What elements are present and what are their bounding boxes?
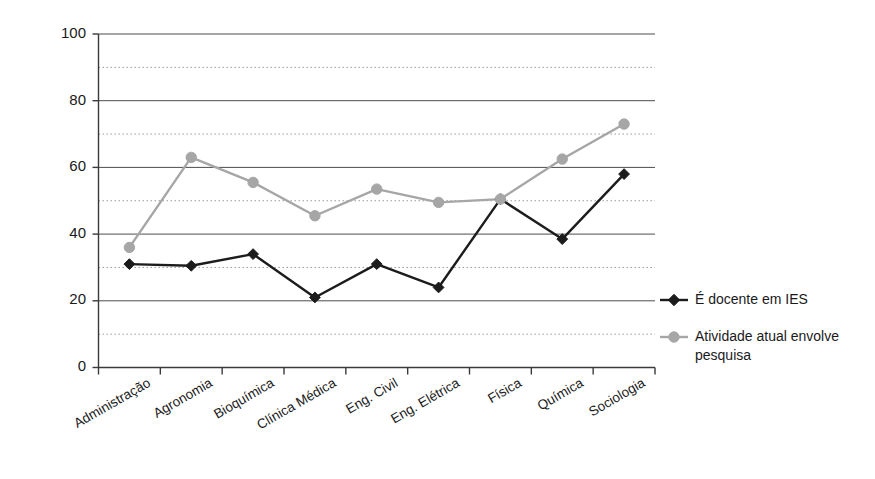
data-point-b-3 bbox=[310, 211, 320, 221]
legend-label-series-b-line2: pesquisa bbox=[695, 347, 751, 363]
chart-background bbox=[0, 0, 875, 479]
y-tick-label-0: 0 bbox=[78, 357, 86, 374]
data-point-b-5 bbox=[433, 197, 443, 207]
data-point-b-6 bbox=[495, 194, 505, 204]
y-tick-label-60: 60 bbox=[69, 157, 86, 174]
legend-label-series-a: É docente em IES bbox=[695, 291, 808, 307]
data-point-b-2 bbox=[248, 177, 258, 187]
data-point-b-4 bbox=[372, 184, 382, 194]
legend-marker-series-b bbox=[669, 332, 679, 342]
y-tick-label-100: 100 bbox=[61, 24, 86, 41]
data-point-b-7 bbox=[557, 154, 567, 164]
chart-canvas: 100 80 60 40 20 0 AdministraçãoAgronomia… bbox=[0, 0, 875, 479]
line-chart: 100 80 60 40 20 0 AdministraçãoAgronomia… bbox=[0, 0, 875, 479]
legend-label-series-b-line1: Atividade atual envolve bbox=[695, 328, 839, 344]
data-point-b-0 bbox=[124, 242, 134, 252]
y-tick-label-80: 80 bbox=[69, 91, 86, 108]
data-point-b-1 bbox=[186, 152, 196, 162]
y-tick-label-40: 40 bbox=[69, 224, 86, 241]
data-point-b-8 bbox=[619, 119, 629, 129]
y-tick-label-20: 20 bbox=[69, 290, 86, 307]
